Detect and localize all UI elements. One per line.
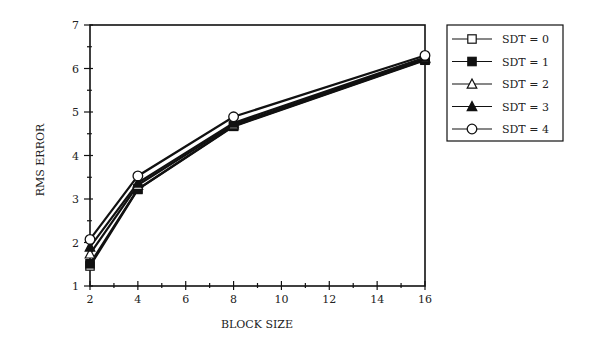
series-sdt-4 [90,55,425,239]
x-tick-label: 6 [182,293,189,306]
legend-label: SDT = 4 [502,123,549,136]
y-tick-label: 5 [72,106,79,119]
chart: 246810121416 1234567 BLOCK SIZE RMS ERRO… [0,0,591,348]
data-point-square-marker [86,260,94,268]
legend: SDT = 0SDT = 1SDT = 2SDT = 3SDT = 4 [447,25,563,141]
x-axis-title: BLOCK SIZE [221,318,293,331]
legend-label: SDT = 2 [502,78,549,91]
series-line [90,60,425,266]
plot-frame [90,25,425,286]
y-tick-label: 2 [72,237,79,250]
y-tick-label: 7 [72,19,79,32]
series-line [90,58,425,247]
series-sdt-1 [90,60,425,264]
series-line [90,60,425,264]
series-markers-sdt-2 [85,53,430,258]
data-point-circle-marker [420,51,430,61]
series-markers-sdt-0 [86,56,429,270]
y-tick-label: 1 [72,280,79,293]
y-tick-label: 6 [72,63,79,76]
data-series [85,51,430,271]
x-tick-label: 16 [418,293,432,306]
plot-area-border [90,25,425,286]
x-tick-label: 14 [370,293,384,306]
legend-square-marker [468,57,476,65]
series-line [90,58,425,253]
legend-label: SDT = 0 [502,33,549,46]
legend-circle-marker [467,124,477,134]
data-point-circle-marker [133,171,143,181]
x-tick-label: 2 [87,293,94,306]
x-tick-label: 12 [322,293,336,306]
x-tick-label: 4 [134,293,141,306]
series-markers-sdt-3 [85,53,430,251]
data-point-circle-marker [85,235,95,245]
data-point-circle-marker [229,112,239,122]
x-tick-label: 10 [274,293,288,306]
legend-square-marker [468,35,476,43]
series-line [90,55,425,239]
y-tick-label: 3 [72,193,79,206]
series-sdt-2 [90,58,425,253]
legend-label: SDT = 1 [502,56,549,69]
series-sdt-0 [90,60,425,266]
x-axis: 246810121416 [87,281,433,306]
x-tick-label: 8 [230,293,237,306]
series-sdt-3 [90,58,425,247]
series-markers-sdt-1 [86,56,429,268]
y-axis-title: RMS ERROR [34,123,47,196]
y-tick-label: 4 [72,150,79,163]
series-markers-sdt-4 [85,51,430,245]
legend-label: SDT = 3 [502,101,549,114]
